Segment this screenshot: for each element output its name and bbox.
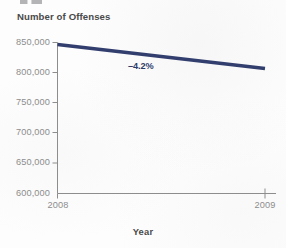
x-tick-label-2008: 2008: [36, 200, 80, 210]
y-tick-label-650000: 650,000: [2, 157, 50, 167]
y-tick-label-750000: 750,000: [2, 97, 50, 107]
x-tick-label-2009: 2009: [243, 200, 286, 210]
y-tick-label-800000: 800,000: [2, 67, 50, 77]
y-tick-label-850000: 850,000: [2, 37, 50, 47]
data-line-number-of-offenses: [58, 45, 266, 69]
y-tick-label-600000: 600,000: [2, 188, 50, 198]
y-axis-ticks: [53, 43, 58, 164]
x-axis-title: Year: [0, 226, 286, 237]
percent-change-annotation: –4.2%: [128, 61, 154, 71]
y-tick-label-700000: 700,000: [2, 127, 50, 137]
chart-screenshot: Number of Offenses 850,000 800,000 750,0…: [0, 0, 286, 248]
